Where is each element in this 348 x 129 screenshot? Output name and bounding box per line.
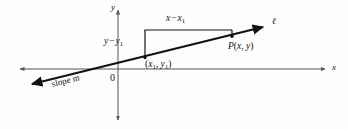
point1-close-paren: ): [168, 59, 171, 69]
run-label: x−x1: [166, 14, 185, 24]
y-axis-label: y: [111, 3, 115, 12]
point-p-marker: [230, 35, 233, 38]
rise-label-subscript: 1: [120, 40, 123, 47]
origin-label: 0: [110, 73, 115, 83]
run-label-subscript: 1: [182, 17, 185, 24]
point-x1y1-label: (x1, y1): [145, 60, 171, 70]
line-name-label: ℓ: [272, 17, 276, 26]
x-axis-label: x: [332, 63, 336, 72]
rise-label: y−y1: [104, 37, 123, 47]
slope-diagram-figure: y x 0 ℓ slope m x−x1 y−y1 (x1, y1) P(x, …: [0, 0, 348, 129]
point-p-label: P(x, y): [228, 42, 253, 52]
run-label-minus: −: [170, 13, 177, 23]
rise-label-minus: −: [108, 36, 115, 46]
point-p-close-paren: ): [250, 41, 253, 51]
